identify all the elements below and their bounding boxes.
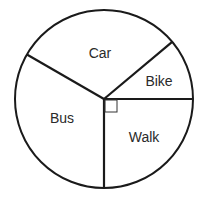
slice-label-bike: Bike <box>145 73 172 89</box>
slice-label-car: Car <box>89 45 112 61</box>
slice-label-walk: Walk <box>129 129 161 145</box>
pie-chart-svg: Bike Car Bus Walk <box>0 0 203 204</box>
pie-chart: Bike Car Bus Walk <box>0 0 203 204</box>
slice-label-bus: Bus <box>50 110 74 126</box>
